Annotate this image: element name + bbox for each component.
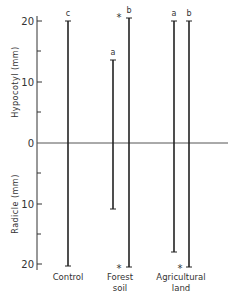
tick-label-20-top: 20	[21, 16, 34, 27]
radicle-axis-title: Radicle (mm)	[11, 174, 20, 234]
chart-canvas: 20 10 0 10 20 Hypocotyl (mm) Radicle (mm…	[0, 0, 234, 299]
category-agri-line2: land	[172, 283, 190, 293]
tick-label-10-top: 10	[21, 77, 34, 88]
bar-agri-b	[186, 21, 192, 267]
letter-agri-a: a	[172, 9, 177, 18]
tick-label-0: 0	[28, 138, 34, 149]
category-agri-line1: Agricultural	[156, 272, 205, 282]
hypocotyl-axis-title: Hypocotyl (mm)	[11, 46, 20, 117]
letter-forest-b: b	[126, 6, 131, 15]
category-forest-line1: Forest	[107, 272, 134, 282]
letter-control: c	[66, 9, 70, 18]
category-forest-line2: soil	[113, 283, 127, 293]
bar-forest-a	[110, 60, 116, 209]
tick-label-10-bot: 10	[21, 199, 34, 210]
tick-label-20-bot: 20	[21, 259, 34, 270]
star-forest-top: *	[117, 12, 122, 23]
letter-agri-b: b	[186, 9, 191, 18]
letter-forest-a: a	[111, 48, 116, 57]
category-control: Control	[53, 272, 84, 282]
bar-agri-a	[171, 21, 177, 252]
